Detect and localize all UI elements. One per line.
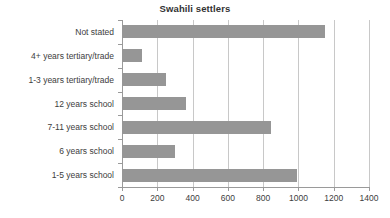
y-axis-tick: [118, 92, 122, 93]
bar-row: [122, 97, 369, 110]
y-axis-tick: [118, 187, 122, 188]
bar-chart: Swahili settlers Not stated4+ years tert…: [0, 0, 390, 218]
x-axis-label: 200: [150, 193, 164, 203]
y-axis-label: 1-5 years school: [52, 170, 114, 180]
chart-title: Swahili settlers: [0, 3, 390, 14]
x-axis-tick: [122, 187, 123, 191]
y-axis-label: 7-11 years school: [48, 122, 114, 132]
x-axis-tick: [157, 187, 158, 191]
bar-row: [122, 25, 369, 38]
bar: [122, 145, 175, 158]
y-axis-tick: [118, 44, 122, 45]
x-axis-line: [122, 187, 369, 188]
y-axis-label: Not stated: [75, 27, 114, 37]
x-axis-tick: [369, 187, 370, 191]
x-axis-label: 1000: [289, 193, 308, 203]
y-axis-label: 12 years school: [54, 99, 114, 109]
x-axis-tick: [298, 187, 299, 191]
y-axis-label: 1-3 years tertiary/trade: [28, 75, 114, 85]
y-axis-tick: [118, 68, 122, 69]
bar: [122, 97, 186, 110]
bar: [122, 49, 142, 62]
bar-row: [122, 121, 369, 134]
y-axis-tick: [118, 20, 122, 21]
bar: [122, 73, 166, 86]
bar-row: [122, 145, 369, 158]
x-axis-label: 400: [185, 193, 199, 203]
bar-row: [122, 73, 369, 86]
y-axis-tick: [118, 115, 122, 116]
y-axis-category-labels: Not stated4+ years tertiary/trade1-3 yea…: [0, 20, 118, 187]
x-axis-tick: [228, 187, 229, 191]
x-axis-label: 1200: [324, 193, 343, 203]
x-axis-tick: [193, 187, 194, 191]
x-axis-label: 800: [256, 193, 270, 203]
y-axis-tick: [118, 163, 122, 164]
y-axis-label: 6 years school: [59, 146, 114, 156]
bars-layer: [122, 20, 369, 187]
bar-row: [122, 169, 369, 182]
bar: [122, 25, 325, 38]
y-axis-tick: [118, 139, 122, 140]
bar-row: [122, 49, 369, 62]
gridline-1400: [369, 20, 370, 187]
x-axis-label: 600: [221, 193, 235, 203]
bar: [122, 169, 297, 182]
bar: [122, 121, 271, 134]
x-axis-tick: [334, 187, 335, 191]
y-axis-label: 4+ years tertiary/trade: [31, 51, 114, 61]
x-axis-tick: [263, 187, 264, 191]
x-axis-label: 0: [120, 193, 125, 203]
x-axis-label: 1400: [360, 193, 379, 203]
plot-area: [122, 20, 369, 187]
